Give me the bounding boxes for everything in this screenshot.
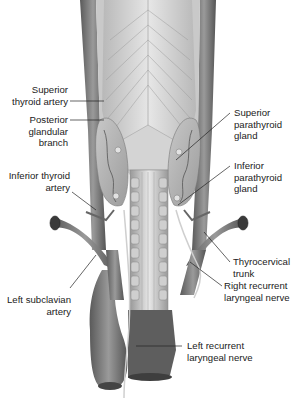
label-thyrocervical-trunk: Thyrocervical trunk [233,256,290,279]
label-inferior-parathyroid-gland: Inferior parathyroid gland [234,160,282,195]
inferior-parathyroid-right [174,195,180,201]
label-superior-parathyroid-gland: Superior parathyroid gland [234,107,282,142]
label-right-recurrent-laryngeal-nerve: Right recurrent laryngeal nerve [224,280,290,303]
superior-parathyroid-right [176,149,182,155]
superior-parathyroid-left [115,147,121,153]
trachea [130,170,168,315]
label-posterior-glandular-branch: Posterior glandular branch [0,114,68,149]
label-inferior-thyroid-artery: Inferior thyroid artery [0,170,70,193]
label-left-subclavian-artery: Left subclavian artery [0,294,71,317]
label-superior-thyroid-artery: Superior thyroid artery [0,84,68,107]
inferior-parathyroid-left [113,193,119,199]
label-left-recurrent-laryngeal-nerve: Left recurrent laryngeal nerve [187,340,253,363]
